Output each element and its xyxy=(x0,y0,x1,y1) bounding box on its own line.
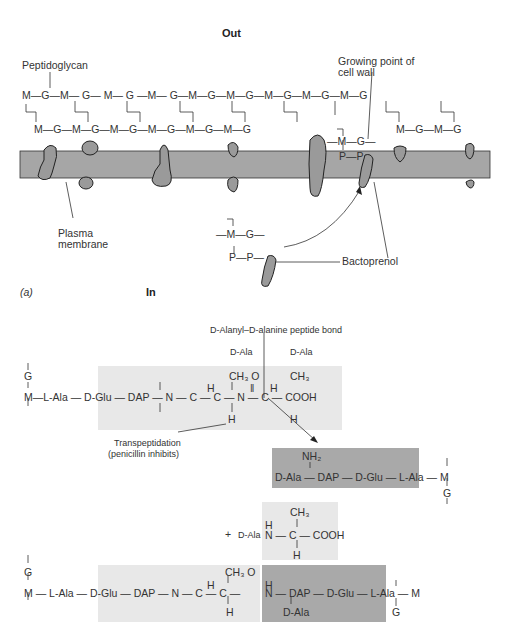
strand1-h-bottom2: H xyxy=(290,414,298,425)
free-unit-mg: —M—G— xyxy=(216,229,264,240)
peptidoglycan-bottom-strand-left: M—G—M—G—M—G—M—G—M—G—M—G xyxy=(34,124,251,135)
released-dala: D-Ala xyxy=(238,530,261,541)
label-peptide-bond: D-Alanyl–D-alanine peptide bond xyxy=(210,325,342,336)
label-bactoprenol: Bactoprenol xyxy=(342,256,398,267)
label-out: Out xyxy=(222,28,241,39)
label-in: In xyxy=(146,287,156,298)
product-h-bottom: H xyxy=(226,607,234,618)
panel-label-a: (a) xyxy=(20,287,33,298)
released-h-bottom: H xyxy=(293,550,301,561)
strand1-g: G xyxy=(24,371,32,382)
product-chain-left: M — L-Ala — D-Glu — DAP — N — C — C — xyxy=(24,588,240,599)
strand1-chain: M—L-Ala — D-Glu — DAP — N — C — C — N — … xyxy=(24,392,317,403)
label-dala-1: D-Ala xyxy=(230,347,253,358)
peptidoglycan-bottom-strand-right: M—G—M—G xyxy=(396,124,461,135)
strand2-chain: D-Ala — DAP — D-Glu — L-Ala — M xyxy=(275,472,449,483)
strand1-h-bottom1: H xyxy=(228,414,236,425)
label-transpeptidation-2: (penicillin inhibits) xyxy=(108,449,179,460)
growing-unit-pp: P—P xyxy=(339,151,364,162)
product-g-right: G xyxy=(392,607,400,618)
peptidoglycan-top-strand: M—G—M— G— M— G —M— G—M—G—M—G—M—G—M—G—M—G xyxy=(22,90,367,101)
peptidoglycan-synthesis-diagram: Out Peptidoglycan Growing point of cell … xyxy=(0,0,507,622)
free-unit-pp: P—P— xyxy=(229,252,264,263)
product-ch3-o: CH₃ O xyxy=(225,567,256,578)
label-dala-2: D-Ala xyxy=(290,347,313,358)
released-ch3: CH₃ xyxy=(290,507,309,518)
label-plasma-2: membrane xyxy=(58,239,108,250)
product-dala: D-Ala xyxy=(283,607,309,618)
growing-unit-mg: —M—G— xyxy=(327,136,375,147)
label-peptidoglycan: Peptidoglycan xyxy=(22,60,88,71)
product-g: G xyxy=(24,567,32,578)
label-growing-point-2: cell wall xyxy=(338,67,375,78)
released-plus: + xyxy=(225,529,231,540)
product-chain-right: N — DAP — D-Glu — L-Ala — M xyxy=(265,588,420,599)
strand1-ch3-o: CH₃ O xyxy=(229,371,260,382)
label-transpeptidation-1: Transpeptidation xyxy=(114,438,181,449)
strand1-ch3-2: CH₃ xyxy=(290,371,309,382)
strand2-g: G xyxy=(443,488,451,499)
released-chain: N — C — COOH xyxy=(265,530,344,541)
strand2-nh2: NH₂ xyxy=(302,451,321,462)
